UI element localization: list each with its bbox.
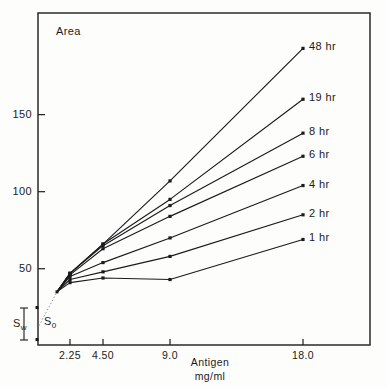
figure-panel: Area Antigen mg/ml Sw S0 501001502.254.5…	[0, 0, 388, 387]
series-label-8-hr: 8 hr	[309, 125, 330, 137]
series-line	[57, 239, 303, 291]
origin-label: S0	[44, 315, 57, 330]
data-point-marker	[101, 270, 104, 273]
x-tick-label: 9.0	[150, 349, 190, 361]
data-point-marker	[68, 281, 71, 284]
data-point-marker	[301, 98, 304, 101]
y-tick-label: 50	[4, 262, 32, 274]
data-point-marker	[168, 255, 171, 258]
data-point-marker	[168, 278, 171, 281]
data-point-marker	[168, 236, 171, 239]
data-point-marker	[301, 132, 304, 135]
data-point-marker	[168, 215, 171, 218]
y-axis-ticks	[38, 115, 45, 269]
data-point-marker	[168, 198, 171, 201]
series-line	[57, 133, 303, 292]
sw-label-subscript: w	[21, 323, 27, 332]
origin-marker-top	[36, 306, 39, 309]
series-line	[57, 99, 303, 292]
s0-label-subscript: 0	[52, 321, 57, 330]
plot-canvas	[0, 0, 388, 387]
common-origin-marker	[56, 290, 59, 293]
series-line	[57, 156, 303, 292]
series-label-19-hr: 19 hr	[309, 91, 336, 103]
series-line	[57, 186, 303, 292]
data-point-marker	[68, 278, 71, 281]
x-tick-label: 4.50	[83, 349, 123, 361]
y-tick-label: 100	[4, 185, 32, 197]
sw-label-main: S	[13, 317, 21, 329]
origin-marker-bottom	[36, 338, 39, 341]
data-point-marker	[101, 247, 104, 250]
data-point-marker	[301, 184, 304, 187]
series-label-2-hr: 2 hr	[309, 207, 330, 219]
data-point-marker	[301, 155, 304, 158]
series-label-48-hr: 48 hr	[309, 40, 336, 52]
data-series-group	[57, 48, 303, 291]
data-point-marker	[301, 47, 304, 50]
x-tick-label: 18.0	[283, 349, 323, 361]
series-label-6-hr: 6 hr	[309, 148, 330, 160]
data-point-marker	[301, 213, 304, 216]
data-point-marker	[101, 276, 104, 279]
data-point-marker	[68, 275, 71, 278]
series-label-4-hr: 4 hr	[309, 178, 330, 190]
data-point-marker	[101, 244, 104, 247]
x-axis-ticks	[70, 339, 303, 345]
x-axis-title-line2: mg/ml	[150, 370, 270, 382]
series-label-1-hr: 1 hr	[309, 231, 330, 243]
data-point-marker	[168, 179, 171, 182]
solvent-front-label: Sw	[13, 317, 27, 332]
data-point-marker	[101, 261, 104, 264]
data-point-marker	[301, 238, 304, 241]
s0-label-main: S	[44, 315, 52, 327]
data-point-marker	[168, 204, 171, 207]
y-tick-label: 150	[4, 108, 32, 120]
y-axis-name-label: Area	[56, 25, 81, 37]
